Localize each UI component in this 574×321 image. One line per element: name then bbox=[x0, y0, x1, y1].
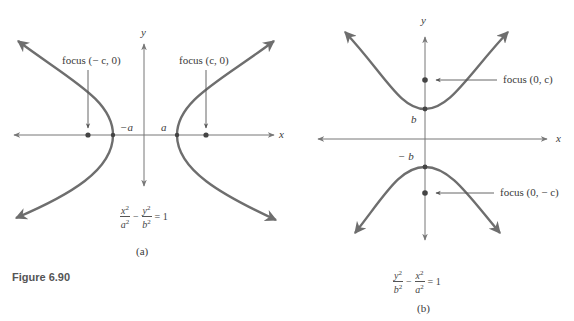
vertex-left-point bbox=[111, 133, 115, 137]
figure-6-90: y x focus (− c, 0) focus (c, 0) −a a x2a… bbox=[0, 0, 574, 321]
vertex-bottom-label: − b bbox=[398, 150, 414, 162]
left-branch bbox=[16, 41, 113, 218]
focus-left-point bbox=[85, 132, 90, 137]
vertex-right-point bbox=[175, 133, 179, 137]
focus-left-label: focus (− c, 0) bbox=[62, 54, 121, 66]
vertex-left-label: −a bbox=[120, 121, 133, 133]
x-axis-label-a: x bbox=[279, 128, 284, 140]
x-axis-label-b: x bbox=[556, 132, 561, 144]
hyperbola-diagrams bbox=[0, 0, 574, 321]
focus-top-label: focus (0, c) bbox=[503, 73, 553, 85]
equation-b: y2b2 − x2a2 = 1 bbox=[393, 268, 444, 295]
y-axis-label-a: y bbox=[141, 26, 146, 38]
panel-b-graph bbox=[318, 32, 547, 240]
lower-branch bbox=[355, 167, 500, 233]
vertex-top-point bbox=[423, 107, 428, 112]
panel-b-label: (b) bbox=[417, 302, 430, 314]
focus-bottom-point bbox=[422, 190, 428, 196]
panel-a-graph bbox=[14, 41, 276, 220]
figure-caption: Figure 6.90 bbox=[12, 271, 70, 283]
right-branch bbox=[177, 41, 276, 220]
y-axis-label-b: y bbox=[421, 14, 426, 26]
focus-right-point bbox=[203, 132, 208, 137]
panel-a-label: (a) bbox=[136, 245, 148, 257]
focus-top-point bbox=[422, 77, 428, 83]
vertex-bottom-point bbox=[423, 165, 428, 170]
upper-branch bbox=[345, 32, 508, 109]
equation-a: x2a2 − y2b2 = 1 bbox=[120, 203, 171, 230]
focus-bottom-label: focus (0, − c) bbox=[500, 186, 559, 198]
vertex-right-label: a bbox=[161, 121, 167, 133]
vertex-top-label: b bbox=[411, 113, 417, 125]
focus-right-label: focus (c, 0) bbox=[179, 54, 229, 66]
